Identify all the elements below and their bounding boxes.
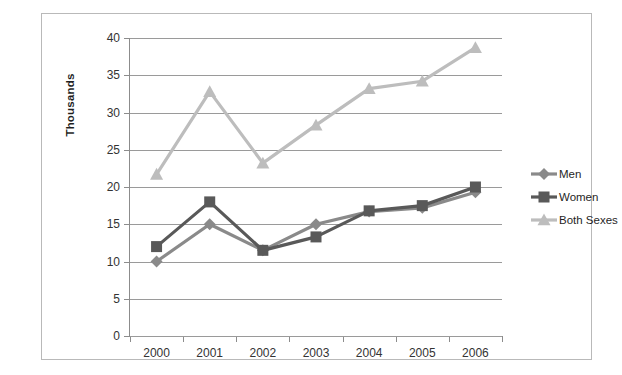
y-tick-label: 15 [94,218,120,230]
y-tick-label-wrap: 35 [92,69,120,81]
data-point-marker [364,205,375,216]
y-tick-label-wrap: 0 [92,330,120,342]
y-tick-label-wrap: 10 [92,256,120,268]
y-tick-label-wrap: 5 [92,293,120,305]
chart-container: Thousands 0510152025303540 2000200120022… [41,13,592,360]
x-tick-label: 2001 [182,346,238,360]
data-point-marker [310,218,322,230]
x-tick-label: 2004 [341,346,397,360]
legend-item-both-sexes[interactable]: Both Sexes [530,208,622,231]
y-tick-label: 20 [94,181,120,193]
data-point-marker [469,41,482,53]
y-tick-label: 5 [94,293,120,305]
plot-area [130,38,502,336]
gridline [130,336,502,337]
y-tick-label: 0 [94,330,120,342]
x-tick-label: 2003 [288,346,344,360]
y-tick-label-wrap: 15 [92,218,120,230]
y-tick-label-wrap: 25 [92,144,120,156]
y-tick-label: 35 [94,69,120,81]
legend-swatch-icon [530,167,558,181]
x-tick-label: 2000 [129,346,185,360]
series-both-sexes [150,41,482,179]
series-plot [130,38,502,336]
data-point-marker [257,245,268,256]
y-tick-label-wrap: 30 [92,107,120,119]
data-point-marker [204,196,215,207]
data-point-marker [151,241,162,252]
x-tick-label: 2005 [394,346,450,360]
legend-item-men[interactable]: Men [530,162,622,185]
chart-legend: MenWomenBoth Sexes [530,162,622,231]
y-tick-label: 10 [94,256,120,268]
x-tick-label: 2006 [447,346,503,360]
data-point-marker [311,231,322,242]
y-axis-title: Thousands [64,0,80,50]
y-tick-label-wrap: 40 [92,32,120,44]
legend-swatch-icon [530,213,558,227]
y-tick-label-wrap: 20 [92,181,120,193]
legend-label: Women [558,191,598,203]
data-point-marker [417,200,428,211]
legend-swatch-icon [530,190,558,204]
legend-label: Both Sexes [558,214,618,226]
y-tick-label: 30 [94,107,120,119]
legend-label: Men [558,168,581,180]
series-line [157,48,476,175]
y-tick-label: 25 [94,144,120,156]
x-tick-mark [502,336,503,342]
x-tick-label: 2002 [235,346,291,360]
y-tick-label: 40 [94,32,120,44]
data-point-marker [470,182,481,193]
legend-item-women[interactable]: Women [530,185,622,208]
y-axis-title-label: Thousands [64,50,76,160]
data-point-marker [203,85,216,97]
series-men [151,186,482,267]
